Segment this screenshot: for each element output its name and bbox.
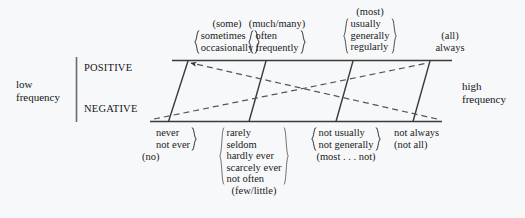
word: regularly [350, 41, 389, 53]
negative-group-4-foot: (not all) [392, 139, 464, 151]
word: not ever [156, 139, 190, 151]
positive-group-2-head: (much/many) [232, 18, 322, 30]
positive-group-4-head: (all) [418, 30, 482, 42]
high-frequency-line2: frequency [462, 93, 506, 106]
low-frequency-label: low frequency [16, 78, 60, 104]
row-label-negative: NEGATIVE [84, 103, 138, 115]
positive-group-4-words: always [418, 42, 482, 54]
negative-group-3-foot: (most . . . not) [300, 151, 392, 163]
word: always [418, 42, 482, 54]
parallelogram-right-edge [413, 61, 430, 122]
word: not often [226, 173, 281, 185]
word: not always [394, 127, 464, 139]
positive-group-2-words: often frequently [254, 30, 299, 54]
dashed-diagonal-falling [154, 63, 428, 119]
column-divider-2 [336, 61, 353, 122]
negative-group-3-braced-words: not usually not generally [300, 127, 392, 151]
dashed-diagonal-rising [191, 63, 437, 119]
low-frequency-line1: low [16, 78, 60, 91]
word: generally [350, 30, 389, 42]
word: usually [350, 18, 389, 30]
negative-group-2-foot: (few/little) [202, 185, 306, 197]
right-brace-icon [391, 18, 397, 54]
high-frequency-label: high frequency [462, 80, 506, 106]
positive-group-3: (most) usually generally regularly [325, 6, 415, 54]
right-brace-icon [283, 127, 289, 185]
negative-group-2-words: rarely seldom hardly ever scarcely ever … [225, 127, 282, 185]
word: not generally [318, 139, 373, 151]
positive-group-4: (all) always [418, 30, 482, 54]
word: not usually [318, 127, 373, 139]
negative-group-3: not usually not generally (most . . . no… [300, 127, 392, 163]
positive-group-3-words: usually generally regularly [349, 18, 390, 54]
right-brace-icon [191, 127, 197, 151]
column-divider-1 [249, 61, 266, 122]
word: seldom [226, 139, 281, 151]
frequency-scale-diagram: low frequency high frequency POSITIVE NE… [0, 0, 525, 218]
word: rarely [226, 127, 281, 139]
word: frequently [255, 42, 298, 54]
high-frequency-line1: high [462, 80, 506, 93]
negative-group-1-words: never not ever [155, 127, 191, 151]
positive-group-3-head: (most) [325, 6, 415, 18]
negative-group-2-braced-words: rarely seldom hardly ever scarcely ever … [202, 127, 306, 185]
negative-group-2: rarely seldom hardly ever scarcely ever … [202, 127, 306, 197]
negative-group-4: not always (not all) [392, 127, 464, 151]
low-frequency-line2: frequency [16, 91, 60, 104]
right-brace-icon [375, 127, 381, 151]
positive-group-2-braced-words: often frequently [232, 30, 322, 54]
word: scarcely ever [226, 162, 281, 174]
positive-group-2: (much/many) often frequently [232, 18, 322, 54]
row-label-positive: POSITIVE [84, 62, 132, 74]
negative-group-4-words: not always [392, 127, 464, 139]
word: hardly ever [226, 150, 281, 162]
positive-group-3-braced-words: usually generally regularly [325, 18, 415, 54]
negative-group-3-words: not usually not generally [317, 127, 374, 151]
word: never [156, 127, 190, 139]
word: often [255, 30, 298, 42]
right-brace-icon [300, 30, 306, 54]
